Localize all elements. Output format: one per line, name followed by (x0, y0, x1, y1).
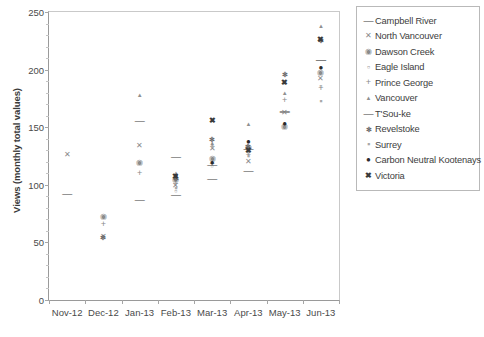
x-tick-label: Feb-13 (161, 307, 191, 318)
x-tick-mark (303, 300, 304, 304)
legend-item[interactable]: ▫Eagle Island (362, 60, 475, 76)
data-point: + (137, 169, 142, 178)
data-point: ▫ (283, 122, 286, 131)
y-tick-mark (45, 242, 49, 243)
y-tick-label: 0 (39, 295, 44, 306)
data-point: ▪ (283, 79, 286, 88)
data-point: ✕ (317, 75, 324, 83)
data-point: + (282, 95, 287, 104)
y-minor-tick (46, 288, 49, 289)
data-point: ◉ (136, 159, 143, 167)
x-tick-mark (122, 300, 123, 304)
x-tick-label: Mar-13 (197, 307, 227, 318)
x-tick-mark (230, 300, 231, 304)
legend-marker-icon: — (362, 16, 375, 26)
data-point: ◉ (281, 123, 288, 131)
legend-item-label: Vancouver (375, 93, 417, 103)
y-minor-tick (46, 35, 49, 36)
legend-item[interactable]: —Campbell River (362, 13, 475, 29)
data-point: ▪ (211, 141, 214, 150)
data-point: ▲ (318, 23, 324, 29)
data-point: ✖ (317, 36, 324, 44)
legend-item[interactable]: ▪Surrey (362, 137, 475, 153)
data-point: ✻ (100, 233, 106, 240)
y-minor-tick (46, 231, 49, 232)
y-minor-tick (46, 139, 49, 140)
x-tick-mark (49, 300, 50, 304)
legend-item[interactable]: ◉Dawson Creek (362, 44, 475, 60)
y-minor-tick (46, 104, 49, 105)
legend-item[interactable]: —T'Sou-ke (362, 106, 475, 122)
y-tick-mark (45, 185, 49, 186)
data-point: ▪ (247, 152, 250, 161)
data-point: — (62, 189, 72, 199)
x-tick-label: May-13 (269, 307, 301, 318)
legend-marker-icon: ◉ (362, 48, 375, 56)
data-point: ✻ (318, 36, 324, 43)
y-minor-tick (46, 208, 49, 209)
y-minor-tick (46, 219, 49, 220)
data-point: ✻ (173, 174, 179, 181)
legend-item-label: Surrey (375, 140, 401, 150)
data-point: ✕ (136, 142, 143, 150)
data-point: ● (318, 64, 323, 72)
data-point: — (280, 107, 290, 117)
y-tick-mark (45, 12, 49, 13)
y-tick-label: 150 (28, 122, 44, 133)
data-point: — (243, 144, 253, 154)
y-minor-tick (46, 116, 49, 117)
data-point: ◉ (172, 176, 179, 184)
y-minor-tick (46, 81, 49, 82)
legend-item-label: Dawson Creek (375, 47, 434, 57)
data-point: — (171, 190, 181, 200)
legend-item[interactable]: +Prince George (362, 75, 475, 91)
data-point: ▲ (173, 170, 179, 176)
legend-item[interactable]: ✕North Vancouver (362, 29, 475, 45)
legend-item-label: Victoria (375, 171, 405, 181)
data-point: ✕ (64, 151, 71, 159)
data-point: ▲ (245, 121, 251, 127)
legend-marker-icon: — (362, 109, 375, 119)
chart-root: Views (monthly total values) 05010015020… (0, 0, 484, 337)
data-point: + (101, 219, 106, 228)
y-minor-tick (46, 265, 49, 266)
x-tick-label: Apr-13 (234, 307, 263, 318)
legend-item-label: Revelstoke (375, 124, 420, 134)
x-tick-label: Jan-13 (125, 307, 154, 318)
y-minor-tick (46, 196, 49, 197)
legend-marker-icon: ✻ (362, 126, 375, 133)
legend-item-label: Eagle Island (375, 62, 424, 72)
y-minor-tick (46, 277, 49, 278)
x-tick-mark (194, 300, 195, 304)
data-point: ▲ (282, 90, 288, 96)
legend-item[interactable]: ▲Vancouver (362, 91, 475, 107)
legend-marker-icon: ✖ (362, 172, 375, 180)
y-tick-mark (45, 70, 49, 71)
legend-marker-icon: ▪ (362, 140, 375, 149)
legend-item[interactable]: ✖Victoria (362, 168, 475, 184)
data-point: — (243, 166, 253, 176)
data-point: ▲ (209, 140, 215, 146)
data-point: ✕ (172, 182, 179, 190)
legend-marker-icon: ● (362, 156, 375, 164)
legend-marker-icon: ▲ (362, 95, 375, 101)
data-point: ▪ (319, 96, 322, 105)
data-point: ▫ (247, 148, 250, 157)
data-point: + (318, 84, 323, 93)
legend-item[interactable]: ●Carbon Neutral Kootenays (362, 153, 475, 169)
y-axis-title-text: Views (monthly total values) (11, 88, 22, 213)
data-point: ● (210, 159, 215, 167)
data-point: ▫ (174, 186, 177, 195)
y-tick-label: 100 (28, 179, 44, 190)
y-axis-title: Views (monthly total values) (6, 0, 26, 300)
data-point: ◉ (100, 213, 107, 221)
legend-item[interactable]: ✻Revelstoke (362, 122, 475, 138)
data-point: — (171, 152, 181, 162)
data-point: ◉ (245, 144, 252, 152)
data-point: ✕ (100, 233, 107, 241)
y-tick-mark (45, 127, 49, 128)
x-tick-mark (85, 300, 86, 304)
data-point: ▫ (211, 162, 214, 171)
data-point: + (209, 160, 214, 169)
data-point: ◉ (317, 69, 324, 77)
